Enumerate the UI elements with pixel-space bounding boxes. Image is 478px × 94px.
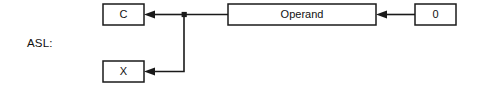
diagram-canvas: C X Operand 0 ASL:	[0, 0, 478, 94]
edge-zero-to-operand	[376, 10, 415, 18]
box-operand[interactable]	[228, 4, 376, 25]
box-c[interactable]	[103, 4, 144, 25]
edge-junction-to-x	[144, 15, 184, 76]
arrowhead-into-x	[144, 67, 155, 75]
junction-dot	[182, 12, 187, 17]
box-x[interactable]	[103, 61, 144, 82]
arrowhead-into-operand	[376, 10, 387, 18]
edge-junction-to-c	[144, 10, 184, 18]
edge-junction-to-x-line	[153, 15, 184, 72]
row-label-asl: ASL:	[27, 37, 53, 49]
arrowhead-into-c	[144, 10, 155, 18]
diagram-graphics	[0, 0, 478, 94]
box-zero[interactable]	[415, 4, 456, 25]
